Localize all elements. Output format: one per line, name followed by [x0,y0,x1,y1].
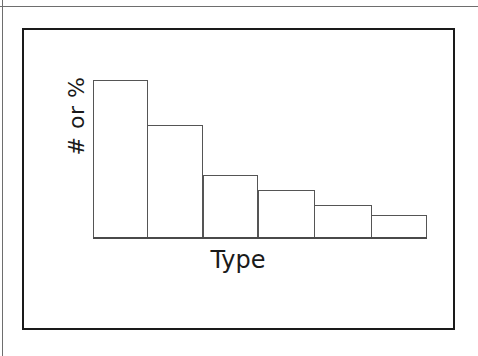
x-axis-label: Type [168,246,308,274]
bar-4 [258,190,315,238]
y-axis-label: # or % [56,61,96,171]
x-axis-baseline [93,237,427,239]
scanned-figure-page: # or % Type [0,0,478,356]
bar-6 [371,215,427,238]
bar-5 [314,205,372,238]
bar-chart [0,0,478,356]
bar-2 [147,125,203,238]
bar-1 [93,80,148,238]
bar-3 [203,175,258,238]
